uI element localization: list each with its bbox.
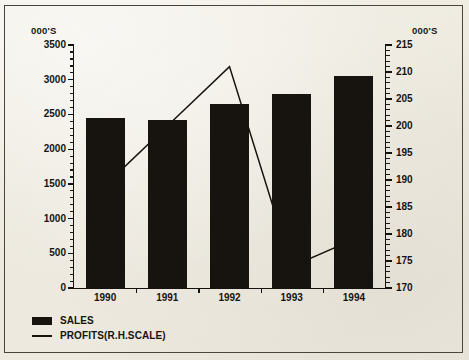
legend-label-sales: SALES — [60, 315, 94, 326]
legend-label-profits: PROFITS(R.H.SCALE) — [60, 330, 166, 341]
profits-swatch-icon — [32, 332, 52, 340]
profits-line-series — [0, 0, 469, 360]
sales-swatch-icon — [32, 317, 52, 325]
chart-figure: 000'S 000'S 0500100015002000250030003500… — [0, 0, 469, 360]
legend-item-sales: SALES — [32, 313, 166, 328]
profits-polyline — [105, 67, 354, 267]
legend-item-profits: PROFITS(R.H.SCALE) — [32, 328, 166, 343]
chart-legend: SALES PROFITS(R.H.SCALE) — [32, 313, 166, 343]
